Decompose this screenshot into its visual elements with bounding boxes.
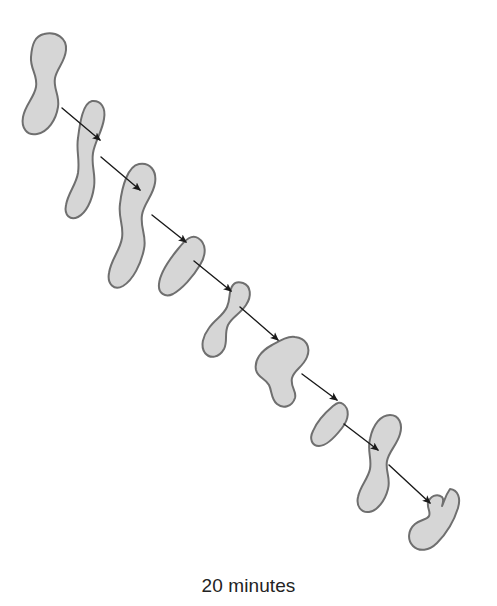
- scale-bar-group: [33, 581, 473, 592]
- transition-arrow-6: [302, 374, 337, 400]
- blob-frame-6: [256, 337, 309, 407]
- blob-frame-2: [66, 101, 105, 218]
- transition-arrow-8: [389, 465, 430, 503]
- blob-frame-8: [358, 415, 401, 512]
- transition-arrow-4: [194, 261, 231, 291]
- transition-arrow-3: [152, 215, 186, 242]
- scale-bar-arrowhead-right: [462, 581, 473, 592]
- blob-frame-5: [202, 282, 249, 357]
- blob-frame-9: [409, 489, 459, 550]
- figure-canvas: [0, 0, 497, 606]
- figure-root: 20 minutes: [0, 0, 497, 606]
- transition-arrow-5: [240, 307, 278, 340]
- blob-frame-3: [109, 164, 156, 288]
- blob-frame-7: [311, 403, 348, 446]
- blob-frame-4: [159, 237, 205, 296]
- blob-sequence-group: [23, 33, 460, 550]
- blob-frame-1: [23, 33, 66, 134]
